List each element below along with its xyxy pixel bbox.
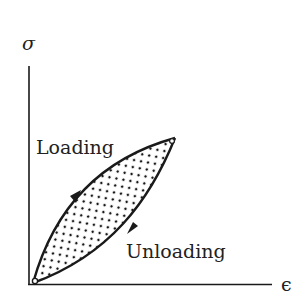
unloading-label: Unloading bbox=[126, 240, 226, 262]
peak-point bbox=[170, 139, 175, 144]
hysteresis-diagram: σ ϵ Loading Unloading bbox=[0, 0, 308, 300]
origin-point bbox=[32, 278, 37, 283]
diagram-svg: σ ϵ Loading Unloading bbox=[0, 0, 308, 300]
loading-label: Loading bbox=[36, 136, 114, 158]
x-axis-label: ϵ bbox=[281, 273, 292, 295]
y-axis-label: σ bbox=[22, 32, 36, 54]
unloading-arrow-icon bbox=[127, 222, 138, 234]
